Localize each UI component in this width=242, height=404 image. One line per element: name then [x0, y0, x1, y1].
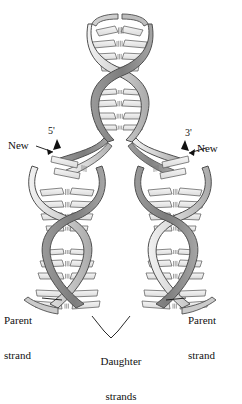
label-three-prime: 3': [185, 127, 192, 139]
base-pair-rungs-top: [92, 26, 147, 130]
replication-fork: [60, 138, 180, 176]
arrowhead-new-right: [189, 149, 195, 156]
base-pair-rung: [40, 188, 94, 196]
base-pair-rung: [100, 89, 140, 95]
helix-tip-left: [92, 14, 118, 26]
arrowhead-five-prime: [53, 139, 61, 150]
arrowheads: [47, 139, 195, 156]
label-new-right: New: [197, 143, 218, 155]
base-pair-rung: [96, 26, 143, 36]
leader-daughter-left: [92, 316, 104, 331]
label-parent-left-line1: Parent: [4, 315, 32, 327]
arrowhead-three-prime: [181, 140, 189, 151]
parent-duplex-top: [87, 14, 153, 142]
label-daughter-line2: strands: [0, 391, 242, 403]
label-daughter-strands: Daughter strands: [0, 333, 242, 404]
arrowhead-new-left: [47, 149, 53, 155]
base-pair-rung: [46, 249, 88, 255]
label-parent-right-line1: Parent: [188, 315, 216, 327]
base-pair-rung: [92, 40, 147, 48]
label-daughter-line1: Daughter: [0, 356, 242, 368]
helix-tip-right: [122, 14, 148, 26]
daughter-duplex-left: [24, 166, 105, 314]
base-pair-rung: [38, 273, 96, 279]
base-pair-rung: [94, 100, 145, 107]
label-five-prime: 5': [48, 125, 55, 137]
label-new-left: New: [8, 140, 29, 152]
base-pair-rung: [148, 188, 202, 196]
leader-daughter-right: [118, 316, 130, 331]
